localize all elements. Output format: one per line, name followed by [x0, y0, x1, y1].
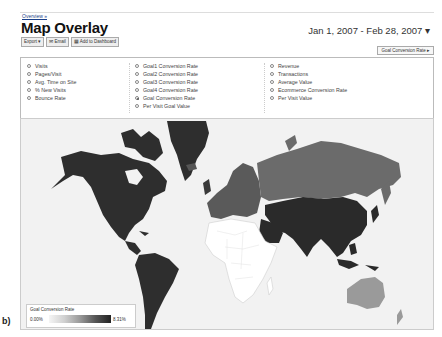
column-divider	[264, 63, 266, 113]
metric-option-visits[interactable]: Visits	[27, 62, 76, 70]
metric-option-ecommerce-rate[interactable]: Ecommerce Conversion Rate	[270, 86, 347, 94]
metric-option-new-visits[interactable]: % New Visits	[27, 86, 76, 94]
region-canada-islands[interactable]	[121, 129, 163, 161]
region-novaya-zemlya[interactable]	[285, 135, 297, 151]
radio-icon[interactable]	[135, 80, 139, 84]
radio-icon[interactable]	[27, 88, 31, 92]
metric-option-goal1[interactable]: Goal1 Conversion Rate	[135, 62, 198, 70]
legend-gradient	[49, 315, 111, 323]
metric-column-1: Visits Pages/Visit Avg. Time on Site % N…	[27, 62, 76, 102]
add-to-dashboard-button[interactable]: ▦ Add to Dashboard	[71, 37, 119, 47]
region-australia[interactable]	[347, 277, 385, 309]
date-range-picker[interactable]: Jan 1, 2007 - Feb 28, 2007 ▾	[308, 25, 430, 36]
email-button[interactable]: ✉ Email	[46, 37, 69, 47]
radio-icon[interactable]	[270, 72, 274, 76]
radio-icon[interactable]	[135, 72, 139, 76]
metric-option-goal-conversion[interactable]: Goal Conversion Rate	[135, 94, 198, 102]
region-caribbean[interactable]	[139, 231, 149, 236]
radio-icon[interactable]	[270, 88, 274, 92]
region-south-america[interactable]	[135, 253, 179, 330]
column-divider	[129, 63, 131, 113]
metric-option-pages-visit[interactable]: Pages/Visit	[27, 70, 76, 78]
region-new-zealand[interactable]	[397, 309, 403, 325]
radio-icon[interactable]	[135, 104, 139, 108]
region-central-america[interactable]	[125, 241, 141, 255]
metric-option-transactions[interactable]: Transactions	[270, 70, 347, 78]
legend-title: Goal Conversion Rate	[30, 307, 74, 312]
map-legend: Goal Conversion Rate 0.00% 8.31%	[26, 304, 136, 328]
page-title: Map Overlay	[21, 19, 108, 36]
radio-icon[interactable]	[27, 72, 31, 76]
metric-select[interactable]: Goal Conversion Rate ▸	[377, 46, 434, 55]
metric-option-goal3[interactable]: Goal3 Conversion Rate	[135, 78, 198, 86]
region-greenland[interactable]	[167, 121, 209, 181]
region-russia[interactable]	[257, 141, 401, 201]
radio-icon[interactable]	[270, 96, 274, 100]
region-uk[interactable]	[203, 179, 211, 195]
region-madagascar[interactable]	[267, 277, 273, 295]
metric-option-goal4[interactable]: Goal4 Conversion Rate	[135, 86, 198, 94]
metric-option-bounce-rate[interactable]: Bounce Rate	[27, 94, 76, 102]
legend-min: 0.00%	[30, 317, 43, 322]
toolbar: Export ▾ ✉ Email ▦ Add to Dashboard	[21, 37, 119, 47]
top-divider	[20, 12, 434, 13]
radio-icon[interactable]	[270, 80, 274, 84]
radio-icon[interactable]	[270, 64, 274, 68]
figure-label: b)	[2, 316, 11, 326]
metric-column-2: Goal1 Conversion Rate Goal2 Conversion R…	[135, 62, 198, 110]
radio-icon[interactable]	[135, 64, 139, 68]
radio-icon[interactable]	[27, 64, 31, 68]
world-map[interactable]	[20, 118, 434, 330]
world-map-svg	[21, 119, 434, 330]
region-north-america[interactable]	[51, 151, 167, 241]
radio-icon[interactable]	[135, 88, 139, 92]
metric-option-revenue[interactable]: Revenue	[270, 62, 347, 70]
radio-icon[interactable]	[27, 80, 31, 84]
radio-selected-icon[interactable]	[135, 96, 139, 100]
region-japan[interactable]	[371, 205, 379, 223]
metric-option-average-value[interactable]: Average Value	[270, 78, 347, 86]
metric-option-per-visit-goal[interactable]: Per Visit Goal Value	[135, 102, 198, 110]
region-europe[interactable]	[207, 163, 261, 219]
metric-option-per-visit-value[interactable]: Per Visit Value	[270, 94, 347, 102]
metric-column-3: Revenue Transactions Average Value Ecomm…	[270, 62, 347, 102]
metric-option-goal2[interactable]: Goal2 Conversion Rate	[135, 70, 198, 78]
metric-panel: Visits Pages/Visit Avg. Time on Site % N…	[20, 57, 434, 120]
radio-icon[interactable]	[27, 96, 31, 100]
export-button[interactable]: Export ▾	[21, 37, 44, 47]
metric-option-avg-time[interactable]: Avg. Time on Site	[27, 78, 76, 86]
legend-max: 8.31%	[113, 317, 126, 322]
